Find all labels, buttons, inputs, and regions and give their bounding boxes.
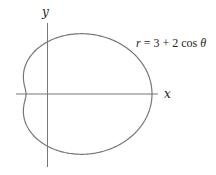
polar-diagram: y x r = 3 + 2 cos θ [0, 0, 216, 175]
y-axis-label: y [41, 5, 49, 19]
x-axis-label: x [164, 87, 171, 101]
equation-theta: θ [200, 36, 206, 50]
curve-equation: r = 3 + 2 cos θ [136, 36, 206, 50]
equation-body: = 3 + 2 cos [141, 36, 201, 50]
